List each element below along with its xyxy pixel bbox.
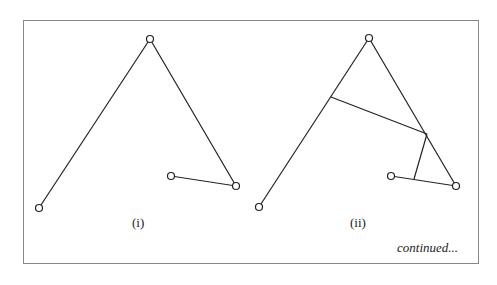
continued-note: continued...	[397, 240, 458, 256]
panel-label-ii: (ii)	[350, 215, 366, 231]
vertex-node	[233, 183, 240, 190]
vertex-circles	[36, 35, 460, 212]
vertex-node	[168, 173, 175, 180]
polyline-segments	[39, 38, 456, 208]
figure-frame	[24, 21, 479, 264]
segment	[39, 39, 150, 208]
vertex-node	[388, 173, 395, 180]
panel-label-i: (i)	[132, 215, 144, 231]
segment	[331, 97, 427, 134]
vertex-node	[147, 36, 154, 43]
segment	[391, 176, 456, 186]
segment	[171, 176, 236, 186]
segment	[414, 134, 427, 179]
segment	[369, 38, 456, 186]
vertex-node	[453, 183, 460, 190]
vertex-node	[256, 204, 263, 211]
vertex-node	[366, 35, 373, 42]
segment	[259, 38, 369, 207]
vertex-node	[36, 205, 43, 212]
segment	[150, 39, 236, 186]
